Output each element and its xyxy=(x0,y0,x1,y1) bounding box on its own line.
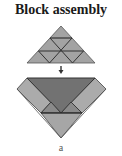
block-assembly-diagram xyxy=(0,0,122,156)
bottom-triangle xyxy=(41,113,82,138)
assembled-block xyxy=(17,78,106,138)
down-arrow-icon xyxy=(59,66,64,74)
triangle-grid xyxy=(27,26,95,63)
figure-label: a xyxy=(0,142,122,154)
